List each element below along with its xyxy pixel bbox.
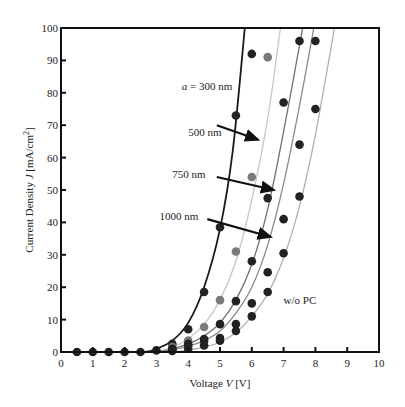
x-axis-label: Voltage V [V] [190, 377, 251, 389]
data-point [263, 268, 272, 277]
data-point [200, 288, 209, 297]
x-tick-label: 1 [90, 357, 96, 369]
data-point [295, 140, 304, 149]
data-point [248, 299, 257, 308]
y-tick-label: 60 [47, 152, 59, 164]
x-tick-label: 9 [344, 357, 350, 369]
y-tick-label: 70 [47, 119, 59, 131]
y-tick-label: 40 [47, 216, 59, 228]
data-point [248, 312, 257, 321]
x-tick-label: 4 [185, 357, 191, 369]
data-point [311, 37, 320, 46]
jv-chart: 012345678910 0102030405060708090100 a = … [0, 0, 405, 407]
arrow-icon [217, 177, 274, 190]
data-point [263, 194, 272, 203]
x-tick-label: 6 [249, 357, 255, 369]
data-point [232, 247, 241, 256]
data-point [184, 325, 193, 334]
data-point [263, 53, 272, 62]
data-point [295, 192, 304, 201]
annotation-label: 750 nm [172, 168, 206, 180]
data-point [279, 98, 288, 107]
data-point [248, 257, 257, 266]
x-tick-label: 0 [58, 357, 64, 369]
y-tick-label: 80 [47, 87, 59, 99]
y-tick-label: 30 [47, 249, 59, 261]
y-tick-label: 90 [47, 54, 59, 66]
annotation-label: 1000 nm [160, 210, 199, 222]
data-point [263, 288, 272, 297]
data-point [216, 320, 225, 329]
x-tick-label: 2 [122, 357, 128, 369]
data-point [295, 37, 304, 46]
x-tick-label: 5 [217, 357, 223, 369]
y-tick-label: 10 [47, 314, 59, 326]
y-tick-label: 100 [42, 22, 59, 34]
y-tick-label: 50 [47, 184, 59, 196]
data-point [232, 111, 241, 120]
data-point [248, 173, 257, 182]
arrow-icon [217, 125, 258, 140]
y-tick-label: 20 [47, 281, 59, 293]
x-tick-label: 10 [374, 357, 386, 369]
data-point [311, 105, 320, 114]
y-axis-label: Current Density J [mA/cm2] [22, 127, 36, 252]
annotation-label: 500 nm [188, 126, 222, 138]
data-point [279, 215, 288, 224]
x-tick-label: 3 [154, 357, 160, 369]
data-point [248, 50, 257, 59]
data-point [279, 249, 288, 258]
fit-curve [81, 0, 251, 352]
data-point [216, 336, 225, 345]
data-point [216, 296, 225, 305]
x-tick-label: 7 [281, 357, 287, 369]
data-point [200, 323, 209, 332]
x-tick-label: 8 [313, 357, 319, 369]
data-point [232, 297, 241, 306]
data-point [232, 327, 241, 336]
y-axis: 0102030405060708090100 [42, 22, 67, 358]
annotation-label: a = 300 nm [182, 80, 233, 92]
annotation-label: w/o PC [284, 294, 317, 306]
y-tick-label: 0 [53, 346, 59, 358]
data-point [200, 341, 209, 350]
